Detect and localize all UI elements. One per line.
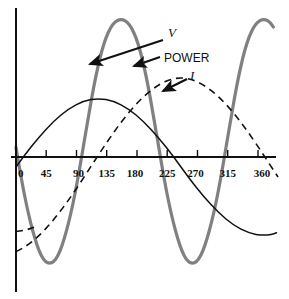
x-tick-label-180: 180	[127, 167, 144, 179]
x-tick-label-0: 0	[18, 167, 24, 179]
i-curve	[16, 78, 278, 252]
x-tick-label-45: 45	[41, 167, 53, 179]
x-axis-ticks	[16, 150, 258, 157]
annotation-power: POWER	[134, 51, 210, 66]
v-curve	[16, 99, 277, 235]
x-tick-label-315: 315	[219, 167, 236, 179]
annotation-i: I	[163, 68, 195, 91]
series-power	[16, 20, 273, 264]
v-label: V	[168, 25, 178, 40]
power-curve	[16, 20, 273, 264]
x-tick-label-360: 360	[254, 167, 271, 179]
axes-group	[11, 8, 276, 292]
series-i	[16, 78, 278, 252]
waveform-figure: V POWER I 0 45 90 135 180 225 270 315 36…	[0, 0, 289, 299]
power-label: POWER	[164, 51, 210, 65]
x-tick-label-270: 270	[187, 167, 204, 179]
power-arrow	[134, 57, 160, 66]
x-tick-label-225: 225	[159, 167, 176, 179]
series-v	[16, 99, 277, 235]
x-tick-label-135: 135	[98, 167, 115, 179]
x-tick-label-90: 90	[73, 167, 85, 179]
x-tick-labels: 0 45 90 135 180 225 270 315 360	[18, 167, 271, 179]
waveform-plot: V POWER I 0 45 90 135 180 225 270 315 36…	[0, 0, 289, 299]
i-label: I	[189, 68, 195, 83]
